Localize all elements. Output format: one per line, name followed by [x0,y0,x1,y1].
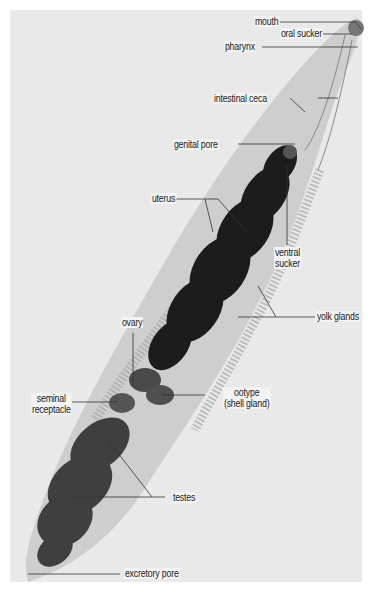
label-ventral-sucker-line1: ventral [275,247,300,258]
label-seminal-receptacle-line1: seminal [32,393,71,404]
ventral-sucker-shape [283,145,297,159]
label-seminal-receptacle: seminal receptacle [31,393,72,415]
seminal-receptacle-shape [109,393,135,413]
label-ovary: ovary [121,317,143,328]
label-excretory-pore: excretory pore [124,568,180,579]
label-intestinal-ceca: intestinal ceca [213,93,268,104]
label-mouth: mouth [254,16,279,27]
label-ootype-line1: ootype [224,387,270,398]
label-oral-sucker: oral sucker [280,28,323,39]
label-ventral-sucker: ventral sucker [274,247,301,269]
label-pharynx: pharynx [224,41,256,52]
specimen-illustration [0,0,372,592]
label-yolk-glands: yolk glands [316,311,360,322]
label-ootype-line2: (shell gland) [224,398,270,409]
label-genital-pore: genital pore [173,139,219,150]
label-seminal-receptacle-line2: receptacle [32,404,71,415]
label-ootype: ootype (shell gland) [223,387,270,409]
label-uterus: uterus [151,193,176,204]
label-ventral-sucker-line2: sucker [275,258,300,269]
label-testes: testes [172,492,196,503]
